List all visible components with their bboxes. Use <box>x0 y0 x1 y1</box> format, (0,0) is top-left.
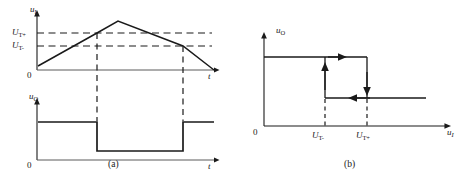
input-plot-origin-label: 0 <box>27 71 32 80</box>
input-plot-y-axis-label: uI <box>30 5 36 15</box>
panel-b-hysteresis: uO uI 0 UT- UT+ (b) <box>240 0 471 180</box>
threshold-lower-label: UT- <box>12 41 24 51</box>
hysteresis-y-axis-label: uO <box>276 26 285 36</box>
caption-a: (a) <box>108 160 119 170</box>
output-plot-y-axis-label: uO <box>29 92 38 102</box>
threshold-upper-label: UT+ <box>12 28 26 38</box>
output-plot-x-axis-label: t <box>208 162 211 171</box>
input-plot-x-axis-label: t <box>208 72 211 81</box>
panel-b-graphics <box>240 0 471 180</box>
output-square-waveform <box>38 122 214 151</box>
panel-a-waveforms: uI t UT+ UT- 0 uO t 0 (a) <box>0 0 240 180</box>
hysteresis-origin-label: 0 <box>253 128 258 137</box>
panel-a-graphics <box>0 0 240 180</box>
output-plot-origin-label: 0 <box>27 161 32 170</box>
hysteresis-tick-label-ut-plus: UT+ <box>356 131 370 141</box>
caption-b: (b) <box>344 160 355 170</box>
hysteresis-tick-label-ut-minus: UT- <box>312 131 324 141</box>
figure-container: uI t UT+ UT- 0 uO t 0 (a) <box>0 0 471 180</box>
hysteresis-x-axis-label: uI <box>447 128 454 138</box>
